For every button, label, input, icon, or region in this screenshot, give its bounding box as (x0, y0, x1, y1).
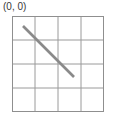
origin-coordinate-label: (0, 0) (3, 0, 26, 14)
grid-lines (12, 16, 104, 112)
grid-container (12, 16, 104, 112)
figure-canvas: (0, 0) (0, 0, 115, 118)
